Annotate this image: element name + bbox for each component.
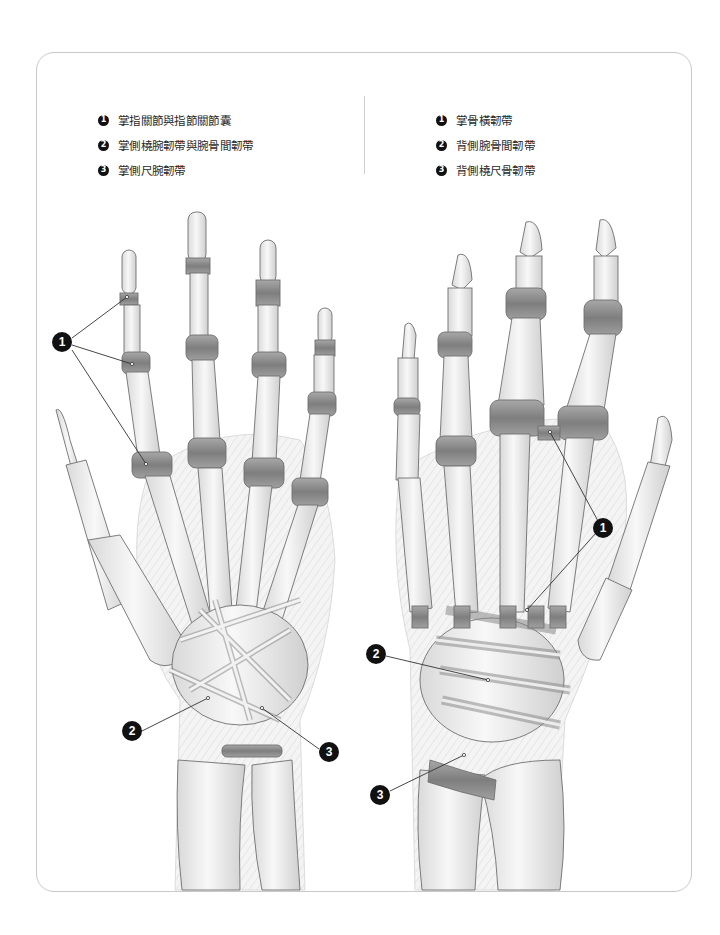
hand-illustrations [0, 0, 720, 935]
callout-dorsal-3: 3 [370, 785, 390, 805]
palmar-hand [56, 212, 336, 890]
callout-dorsal-2: 2 [366, 644, 386, 664]
dorsal-hand [394, 220, 672, 890]
callout-dorsal-1: 1 [593, 518, 613, 538]
callout-palmar-2: 2 [122, 721, 142, 741]
callout-palmar-1: 1 [52, 332, 72, 352]
callout-palmar-3: 3 [319, 742, 339, 762]
